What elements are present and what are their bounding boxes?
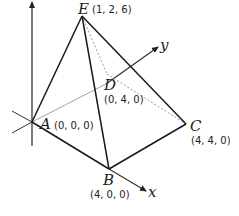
edge-EA [32,16,82,122]
pyramid-diagram: E (1, 2, 6) D (0, 4, 0) A (0, 0, 0) C (4… [0,0,239,216]
label-D: D [103,76,116,94]
label-B: B [102,171,114,189]
x-axis-label: x [148,183,157,201]
coord-E: (1, 2, 6) [92,4,132,15]
coord-D: (0, 4, 0) [104,94,144,105]
label-A: A [38,115,51,133]
label-E: E [77,0,89,18]
x-axis [109,169,146,191]
x-axis-back [12,111,32,122]
y-axis-back [12,122,32,133]
edge-BC [109,124,186,169]
coord-B: (4, 0, 0) [90,189,130,200]
edge-ED-hidden [82,16,107,74]
label-C: C [190,117,202,135]
y-axis-label: y [159,36,169,54]
coord-C: (4, 4, 0) [191,135,231,146]
coord-A: (0, 0, 0) [54,120,94,131]
